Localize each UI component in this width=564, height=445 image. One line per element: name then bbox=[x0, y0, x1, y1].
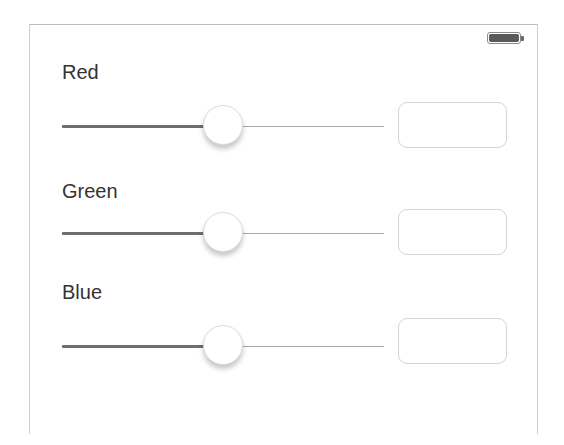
blue-slider[interactable] bbox=[62, 324, 384, 368]
blue-slider-track-max bbox=[223, 346, 384, 347]
blue-label: Blue bbox=[62, 282, 102, 302]
green-value-field[interactable] bbox=[398, 209, 507, 255]
blue-slider-track-min bbox=[62, 345, 223, 348]
battery-icon bbox=[487, 32, 521, 44]
red-slider-track-max bbox=[223, 126, 384, 127]
red-slider-thumb[interactable] bbox=[203, 105, 243, 145]
red-label: Red bbox=[62, 62, 99, 82]
green-slider-track-min bbox=[62, 232, 223, 235]
blue-slider-thumb[interactable] bbox=[203, 325, 243, 365]
green-label: Green bbox=[62, 181, 118, 201]
red-value-field[interactable] bbox=[398, 102, 507, 148]
battery-nub bbox=[521, 36, 524, 41]
green-slider-thumb[interactable] bbox=[203, 212, 243, 252]
red-slider[interactable] bbox=[62, 104, 384, 148]
green-slider[interactable] bbox=[62, 211, 384, 255]
green-slider-track-max bbox=[223, 233, 384, 234]
blue-value-field[interactable] bbox=[398, 318, 507, 364]
red-slider-track-min bbox=[62, 125, 223, 128]
battery-fill bbox=[489, 34, 519, 42]
